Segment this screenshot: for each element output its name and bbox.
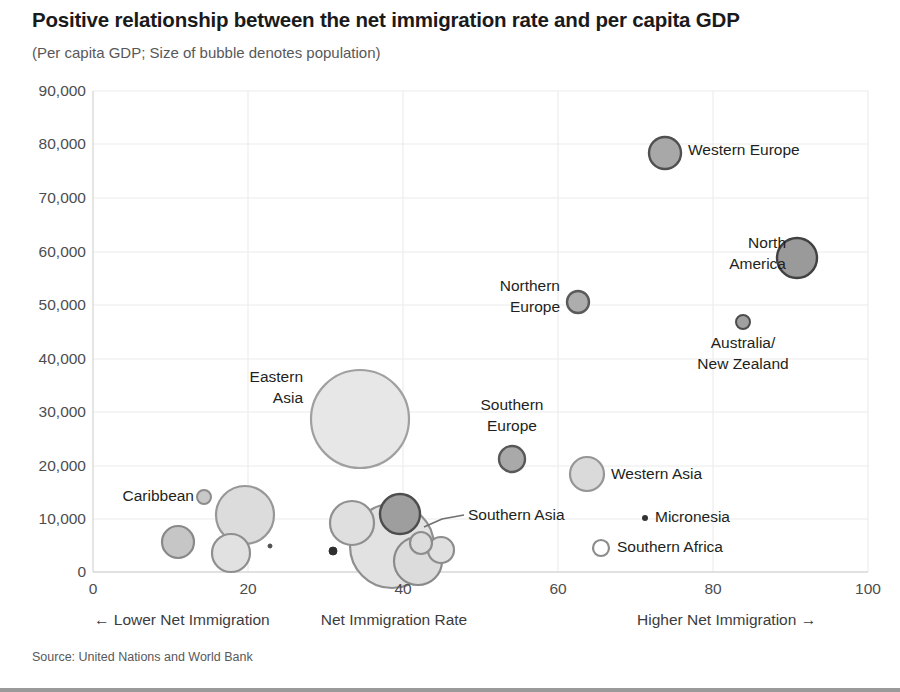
y-tick-90000: 90,000 — [0, 82, 86, 100]
x-axis-caption-center: Net Immigration Rate — [304, 611, 484, 629]
chart-root: Positive relationship between the net im… — [0, 0, 900, 692]
x-axis-caption-left: ← Lower Net Immigration — [94, 611, 270, 629]
label-australia-nz-line2: New Zealand — [633, 355, 853, 372]
y-tick-10000: 10,000 — [0, 510, 86, 528]
label-southern-europe-line2: Europe — [427, 417, 597, 434]
x-tick-60: 60 — [528, 580, 588, 598]
x-tick-0: 0 — [63, 580, 123, 598]
bubble-australia-new-zealand — [736, 315, 750, 329]
x-tick-40: 40 — [373, 580, 433, 598]
source-note: Source: United Nations and World Bank — [32, 650, 253, 664]
x-tick-20: 20 — [218, 580, 278, 598]
label-northern-europe-line1: Northern — [320, 277, 560, 294]
micronesia-legend-dot — [642, 515, 648, 521]
bubble-middle-africa — [410, 532, 432, 554]
southern-africa-legend-circle — [593, 540, 609, 556]
label-north-america-line2: America — [546, 255, 786, 272]
label-northern-europe-line2: Europe — [320, 298, 560, 315]
bubble-eastern-asia — [311, 370, 409, 468]
bubble-western-asia — [570, 457, 604, 491]
y-tick-60000: 60,000 — [0, 243, 86, 261]
bubble-caribbean — [197, 490, 211, 504]
label-north-america-line1: North — [546, 234, 786, 251]
x-tick-100: 100 — [838, 580, 898, 598]
x-tick-80: 80 — [683, 580, 743, 598]
label-australia-nz-line1: Australia/ — [633, 334, 853, 351]
y-tick-40000: 40,000 — [0, 350, 86, 368]
bubble-southern-europe — [499, 446, 525, 472]
bottom-rule — [0, 688, 900, 692]
label-southern-africa: Southern Africa — [617, 538, 723, 555]
bubble-south-eastern-asia — [330, 501, 374, 545]
label-caribbean: Caribbean — [50, 487, 194, 504]
y-tick-70000: 70,000 — [0, 189, 86, 207]
label-eastern-asia-line2: Asia — [63, 389, 303, 406]
bubble-central-asia — [212, 534, 250, 572]
bubble-western-europe — [649, 137, 681, 169]
x-axis-caption-right: Higher Net Immigration → — [637, 611, 816, 629]
label-western-asia: Western Asia — [611, 465, 702, 482]
y-tick-20000: 20,000 — [0, 457, 86, 475]
bubble-melanesia — [329, 547, 337, 555]
y-tick-80000: 80,000 — [0, 135, 86, 153]
label-micronesia: Micronesia — [655, 508, 730, 525]
bubble-central-eastern-europe — [380, 494, 420, 534]
label-western-europe: Western Europe — [688, 141, 800, 158]
label-southern-asia: Southern Asia — [468, 506, 565, 523]
y-tick-0: 0 — [0, 563, 86, 581]
bubble-polynesia — [268, 544, 272, 548]
bubble-northern-europe — [567, 291, 589, 313]
southern-asia-leader-line — [424, 515, 464, 527]
y-tick-50000: 50,000 — [0, 296, 86, 314]
label-southern-europe-line1: Southern — [427, 396, 597, 413]
label-eastern-asia-line1: Eastern — [63, 368, 303, 385]
bubble-northern-africa — [162, 526, 194, 558]
x-gridlines — [248, 91, 868, 572]
